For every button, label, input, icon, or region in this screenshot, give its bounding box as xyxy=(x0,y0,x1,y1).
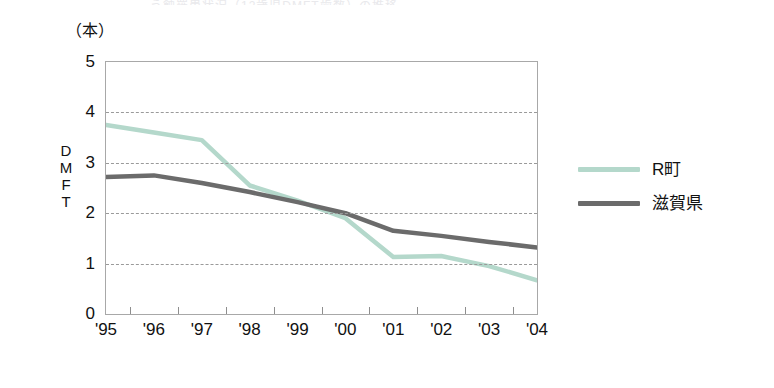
x-axis-tick xyxy=(417,307,418,314)
x-axis-tick xyxy=(226,307,227,314)
gridline-y-4 xyxy=(106,112,537,113)
y-axis-title: D M F T xyxy=(56,142,76,210)
legend-item-label: R町 xyxy=(652,160,681,179)
y-axis-tick-label-2: 2 xyxy=(69,204,95,221)
x-axis-tick-label: '99 xyxy=(286,320,308,339)
gridline-y-3 xyxy=(106,163,537,164)
x-axis-tick-label: '96 xyxy=(143,320,165,339)
y-axis-tick-label-3: 3 xyxy=(69,154,95,171)
legend-line-swatch-icon xyxy=(578,201,640,206)
x-axis-tick-label: '02 xyxy=(430,320,452,339)
x-axis-tick xyxy=(130,307,131,314)
x-axis-tick xyxy=(369,307,370,314)
x-axis-tick xyxy=(513,307,514,314)
x-axis-tick xyxy=(465,307,466,314)
plot-area xyxy=(105,61,538,315)
x-axis-tick-label: '95 xyxy=(95,320,117,339)
gridline-y-1 xyxy=(106,264,537,265)
legend-line-swatch-icon xyxy=(578,167,640,172)
legend-item[interactable]: 滋賀県 xyxy=(578,186,758,220)
data-series-layer xyxy=(106,62,537,314)
y-axis-title-char-2: F xyxy=(56,176,76,193)
legend-item[interactable]: R町 xyxy=(578,152,758,186)
legend-item-label: 滋賀県 xyxy=(652,194,703,213)
x-axis-tick-label: '01 xyxy=(382,320,404,339)
x-axis-tick xyxy=(274,307,275,314)
gridline-y-2 xyxy=(106,213,537,214)
x-axis-tick xyxy=(322,307,323,314)
x-axis-tick-label: '98 xyxy=(239,320,261,339)
x-axis-tick-label: '00 xyxy=(334,320,356,339)
chart-legend: R町滋賀県 xyxy=(578,152,758,220)
chart-title-cropped: う蝕罹患状況（12歳児DMFT歯数）の推移 xyxy=(150,0,600,5)
y-axis-tick-label-1: 1 xyxy=(69,255,95,272)
y-axis-tick-label-4: 4 xyxy=(69,103,95,120)
y-axis-unit-label: （本） xyxy=(66,22,114,40)
y-axis-tick-label-0: 0 xyxy=(69,305,95,322)
series-line-R町 xyxy=(106,125,537,280)
x-axis-tick-label: '04 xyxy=(526,320,548,339)
chart-figure: う蝕罹患状況（12歳児DMFT歯数）の推移 （本） D M F T 012345… xyxy=(0,0,774,388)
x-axis-tick xyxy=(178,307,179,314)
x-axis-tick-label: '03 xyxy=(478,320,500,339)
y-axis-tick-label-5: 5 xyxy=(69,53,95,70)
x-axis-tick-label: '97 xyxy=(191,320,213,339)
